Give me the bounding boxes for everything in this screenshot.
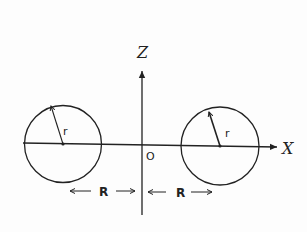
right-distance-indicator: R: [148, 186, 212, 200]
left-radius-label: r: [63, 125, 68, 138]
z-axis: Z: [136, 43, 149, 215]
origin-label: O: [146, 150, 155, 163]
right-distance-label: R: [176, 186, 185, 200]
left-distance-label: R: [99, 185, 108, 199]
right-radius-label: r: [225, 127, 230, 140]
x-axis-label: X: [280, 139, 294, 158]
x-axis: X: [23, 139, 294, 158]
left-radius-arrow: [51, 106, 63, 144]
diagram-canvas: Z X O r r R: [0, 0, 307, 232]
right-radius-arrow: [209, 112, 220, 146]
left-distance-indicator: R: [70, 185, 135, 199]
z-axis-label: Z: [136, 43, 149, 62]
torus-cross-section-diagram: Z X O r r R: [0, 0, 307, 232]
